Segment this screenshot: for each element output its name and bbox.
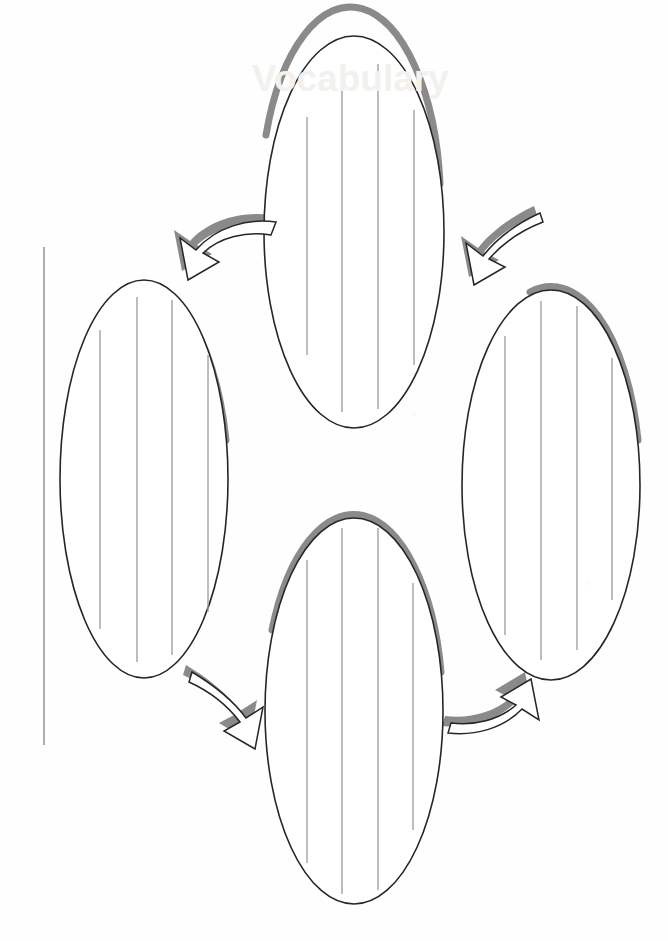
worksheet-page: Vocabulary <box>0 0 668 941</box>
diagram-canvas <box>0 0 668 941</box>
oval-bottom-fill <box>265 518 443 904</box>
oval-left-fill <box>60 280 228 678</box>
oval-top-fill <box>264 36 444 428</box>
arrow-bottom-right[interactable] <box>448 679 539 734</box>
oval-right-fill <box>462 290 640 680</box>
arrow-top-left[interactable] <box>180 221 276 280</box>
oval-fill-layer <box>60 36 640 904</box>
